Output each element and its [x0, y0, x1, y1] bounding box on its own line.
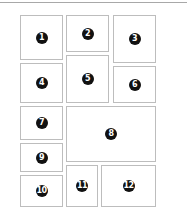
panel-1: 1 — [20, 15, 63, 60]
number-badge: 1 — [36, 32, 48, 44]
number-badge: 6 — [129, 79, 141, 91]
panel-3: 3 — [113, 15, 156, 63]
panel-9: 9 — [20, 143, 63, 172]
panel-11: 11 — [66, 165, 98, 207]
panel-6: 6 — [113, 66, 156, 103]
number-badge: 9 — [36, 152, 48, 164]
number-badge: 12 — [123, 180, 135, 192]
panel-10: 10 — [20, 175, 63, 207]
panel-12: 12 — [101, 165, 156, 207]
number-badge: 11 — [76, 180, 88, 192]
number-badge: 8 — [105, 128, 117, 140]
panel-7: 7 — [20, 106, 63, 140]
panel-5: 5 — [66, 55, 109, 103]
panel-4: 4 — [20, 63, 63, 103]
panel-8: 8 — [66, 106, 156, 162]
number-badge: 4 — [36, 77, 48, 89]
top-rule — [0, 2, 187, 3]
number-badge: 3 — [129, 33, 141, 45]
number-badge: 5 — [82, 73, 94, 85]
number-badge: 2 — [82, 28, 94, 40]
number-badge: 10 — [36, 185, 48, 197]
panel-2: 2 — [66, 15, 109, 52]
number-badge: 7 — [36, 117, 48, 129]
